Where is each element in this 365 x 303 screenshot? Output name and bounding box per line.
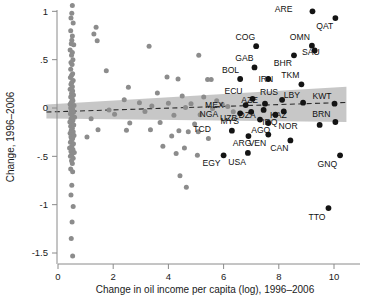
country-label-brn: BRN — [312, 109, 330, 119]
y-tick-label-0: 1 — [43, 6, 48, 17]
y-tick-label-4: -1 — [40, 199, 48, 210]
country-label-tkm: TKM — [281, 70, 299, 80]
country-label-cog: COG — [236, 32, 256, 42]
country-label-are: ARE — [275, 4, 293, 14]
country-label-lby: LBY — [284, 90, 301, 100]
y-tick-label-3: -.5 — [37, 151, 48, 162]
country-label-qat: QAT — [316, 21, 334, 31]
country-label-dza: DZA — [238, 110, 255, 120]
x-tick-label-0: 0 — [55, 271, 60, 282]
country-label-aze: AZE — [241, 95, 258, 105]
country-label-rus: RUS — [260, 87, 278, 97]
country-label-nor: NOR — [279, 121, 298, 131]
country-label-sau: SAU — [302, 47, 320, 57]
y-axis-title: Change, 1996–2006 — [5, 91, 16, 182]
x-tick-label-2: 4 — [166, 271, 171, 282]
country-label-tto: TTO — [308, 212, 325, 222]
x-axis-title: Change in oil income per capita (log), 1… — [96, 284, 315, 295]
country-label-tcd: TCD — [193, 124, 211, 134]
country-label-gnq: GNQ — [317, 159, 337, 169]
x-tick-label-1: 2 — [111, 271, 116, 282]
country-label-omn: OMN — [290, 32, 310, 42]
country-label-egy: EGY — [202, 158, 220, 168]
country-label-bol: BOL — [222, 65, 239, 75]
country-label-gab: GAB — [235, 53, 253, 63]
scatter-plot-svg: AREQATCOGOMNSAUBHRGABBOLIRNTKMECURUSLBYK… — [0, 0, 365, 303]
y-tick-label-5: -1.5 — [32, 247, 48, 258]
country-label-ven: VEN — [249, 138, 267, 148]
y-tick-label-1: .5 — [40, 54, 48, 65]
country-label-nga: NGA — [200, 109, 219, 119]
x-tick-label-5: 10 — [329, 271, 340, 282]
x-tick-label-4: 8 — [276, 271, 281, 282]
x-tick-label-3: 6 — [221, 271, 226, 282]
country-label-usa: USA — [228, 157, 246, 167]
oil-income-scatter-chart: AREQATCOGOMNSAUBHRGABBOLIRNTKMECURUSLBYK… — [0, 0, 365, 303]
country-label-bhr: BHR — [274, 58, 292, 68]
country-label-can: CAN — [270, 143, 288, 153]
country-label-irn: IRN — [258, 74, 273, 84]
y-tick-label-2: 0 — [43, 102, 48, 113]
country-label-ago: AGO — [251, 125, 270, 135]
country-label-kwt: KWT — [312, 91, 332, 101]
country-label-ecu: ECU — [224, 86, 242, 96]
country-label-mys: MYS — [220, 116, 239, 126]
